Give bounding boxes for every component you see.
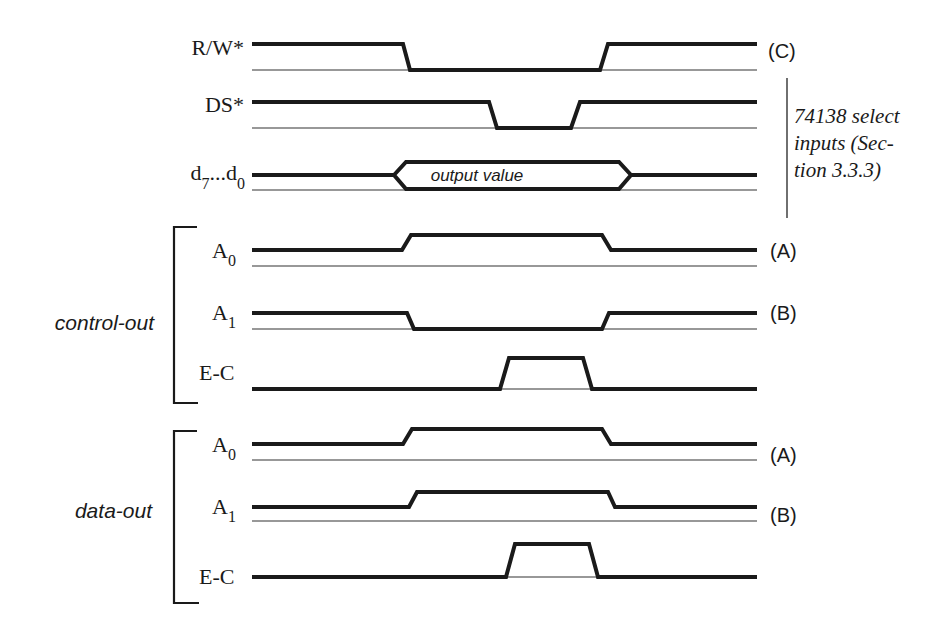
- group-bracket: [174, 227, 198, 403]
- tag-a: (A): [770, 240, 797, 262]
- signal-label-ec: E-C: [199, 360, 234, 385]
- group-bracket: [174, 431, 199, 603]
- waveform-rw: [252, 44, 757, 70]
- signal-label-a0: A0: [212, 432, 236, 463]
- signal-label-a1: A1: [212, 300, 236, 331]
- annotation-line-3: tion 3.3.3): [794, 158, 881, 182]
- signal-label-ec: E-C: [199, 564, 234, 589]
- tag-b: (B): [770, 302, 797, 324]
- signal-data-bus: d7...d0 output value: [191, 160, 758, 192]
- tag-a: (A): [770, 444, 797, 466]
- annotation-line-1: 74138 select: [794, 104, 901, 128]
- signal-label-a0: A0: [212, 238, 236, 269]
- waveform-ds: [252, 102, 757, 128]
- waveform-a1: [252, 492, 757, 507]
- group-data-out: data-out A0 (A) A1 (B) E-C: [75, 429, 797, 603]
- group-control-out: control-out A0 (A) A1 (B) E-C: [55, 227, 797, 403]
- signal-rw: R/W* (C): [191, 35, 795, 70]
- timing-diagram: R/W* (C) DS* d7...d0 output value 74138 …: [0, 0, 942, 635]
- waveform-a0: [252, 429, 757, 444]
- waveform-a0: [252, 235, 757, 250]
- group-label-control-out: control-out: [55, 311, 155, 334]
- signal-label-rw: R/W*: [191, 35, 244, 60]
- signal-ds: DS*: [205, 92, 757, 128]
- waveform-ec: [252, 544, 757, 577]
- tag-b: (B): [770, 504, 797, 526]
- waveform-a1: [252, 313, 757, 329]
- annotation-line-2: inputs (Sec-: [794, 131, 894, 155]
- bus-value-label: output value: [431, 166, 524, 185]
- annotation-74138: 74138 select inputs (Sec- tion 3.3.3): [787, 78, 901, 218]
- signal-label-a1: A1: [212, 494, 236, 525]
- signal-label-data-bus: d7...d0: [191, 160, 246, 192]
- group-label-data-out: data-out: [75, 499, 153, 522]
- signal-label-ds: DS*: [205, 92, 244, 117]
- waveform-ec: [252, 358, 757, 389]
- tag-c: (C): [768, 40, 796, 62]
